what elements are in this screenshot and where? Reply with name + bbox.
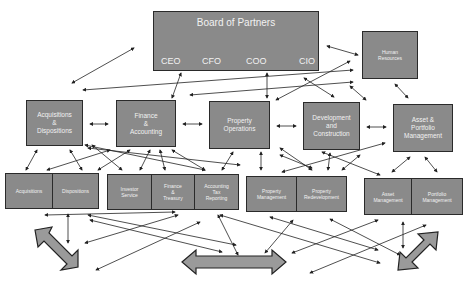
exec-ceo: CEO — [161, 56, 181, 66]
board-title: Board of Partners — [154, 17, 318, 28]
unit-property-redevelopment: Property Redevelopment — [296, 176, 347, 212]
unit-finance-treasury: Finance & Treasury — [151, 174, 195, 210]
unit-accounting-tax-reporting: Accounting Tax Reporting — [194, 174, 239, 210]
big-double-arrow-right — [398, 232, 438, 270]
dept-development-construction: Development and Construction — [303, 102, 360, 150]
exec-cfo: CFO — [202, 56, 221, 66]
unit-acquisitions: Acquisitions — [5, 173, 53, 209]
dept-acquisitions-dispositions: Acquisitions & Dispositions — [26, 100, 83, 146]
dept-property-operations: Property Operations — [209, 101, 270, 149]
unit-asset-management: Asset Management — [364, 178, 412, 215]
board-of-partners: Board of Partners CEO CFO COO CIO — [153, 11, 319, 71]
unit-property-management: Property Management — [246, 176, 297, 212]
unit-dispositions: Dispositions — [52, 173, 99, 209]
big-double-arrow-left — [35, 227, 78, 270]
dept-asset-portfolio: Asset & Portfolio Management — [393, 104, 453, 152]
big-double-arrow-center — [182, 250, 286, 274]
exec-coo: COO — [246, 56, 267, 66]
exec-cio: CIO — [299, 56, 315, 66]
unit-investor-service: Investor Service — [107, 174, 152, 210]
dept-finance-accounting: Finance & Accounting — [116, 100, 176, 147]
human-resources-box: Human Resources — [362, 31, 418, 79]
unit-portfolio-management: Portfolio Management — [411, 178, 463, 215]
